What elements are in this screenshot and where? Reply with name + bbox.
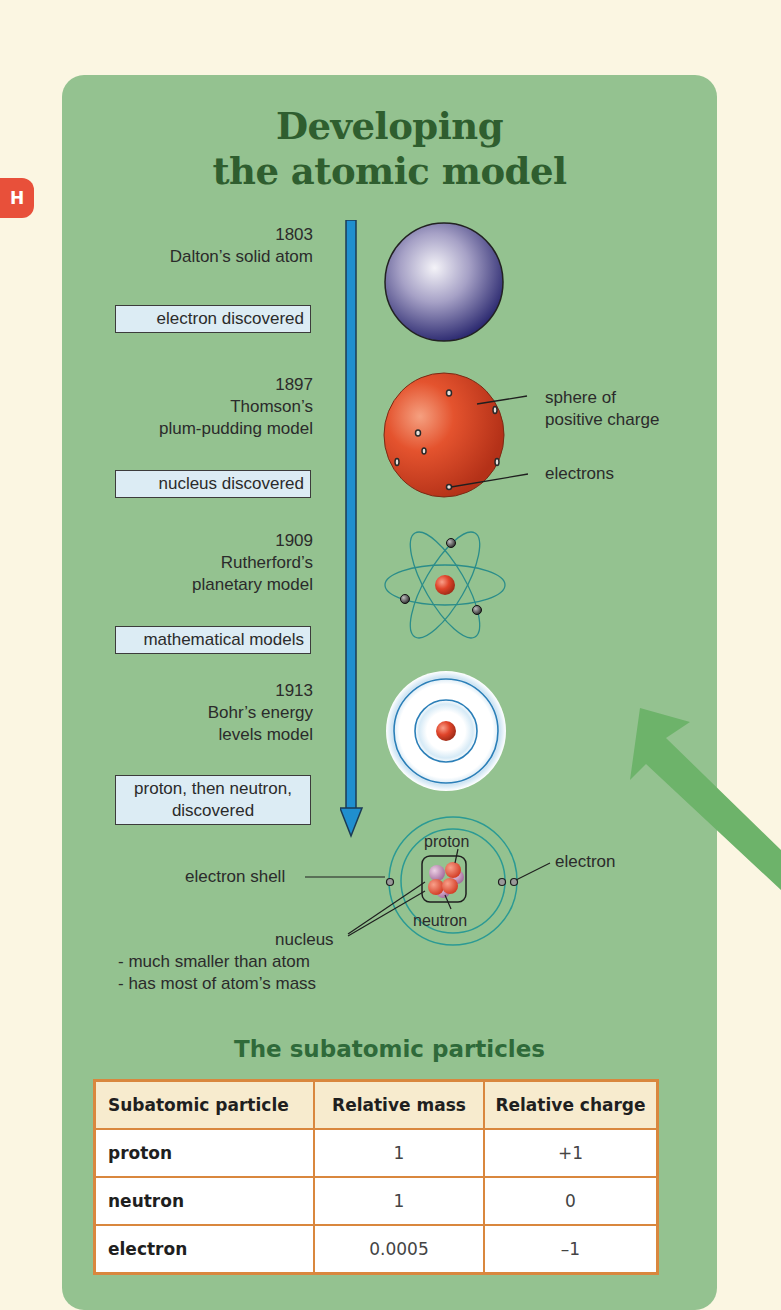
bohr-energy-levels-atom-icon <box>385 669 507 793</box>
subatomic-particles-table: Subatomic particle Relative mass Relativ… <box>93 1079 659 1275</box>
cell-charge: –1 <box>484 1225 658 1274</box>
annotation-nucleus: nucleus <box>275 929 334 951</box>
model-bohr-label: 1913 Bohr’s energy levels model <box>208 680 313 746</box>
event-mathematical-models: mathematical models <box>115 626 311 654</box>
cell-mass: 0.0005 <box>314 1225 484 1274</box>
table-row: proton 1 +1 <box>95 1129 658 1177</box>
event-electron-discovered: electron discovered <box>115 305 311 333</box>
event-nucleus-discovered: nucleus discovered <box>115 470 311 498</box>
annotation-electron-shell: electron shell <box>185 866 285 888</box>
nucleus-note-mass: - has most of atom’s mass <box>118 973 316 995</box>
header-mass: Relative mass <box>314 1081 484 1130</box>
rutherford-planetary-atom-icon <box>383 528 507 642</box>
annotation-electrons: electrons <box>545 463 614 485</box>
model-thomson-label: 1897 Thomson’s plum-pudding model <box>159 374 313 440</box>
nucleus-note-size: - much smaller than atom <box>118 951 310 973</box>
page-title: Developing the atomic model <box>62 104 717 194</box>
event-proton-neutron-discovered: proton, then neutron, discovered <box>115 775 311 825</box>
annotation-sphere-of-positive-charge: sphere of positive charge <box>545 387 659 431</box>
table-row: neutron 1 0 <box>95 1177 658 1225</box>
header-charge: Relative charge <box>484 1081 658 1130</box>
cell-charge: +1 <box>484 1129 658 1177</box>
model-dalton-label: 1803 Dalton’s solid atom <box>170 224 313 268</box>
annotation-proton: proton <box>424 831 469 853</box>
cell-particle: proton <box>95 1129 315 1177</box>
cell-particle: electron <box>95 1225 315 1274</box>
table-title: The subatomic particles <box>62 1036 717 1062</box>
model-rutherford-label: 1909 Rutherford’s planetary model <box>192 530 313 596</box>
decorative-arrow-icon <box>600 700 781 900</box>
annotation-electron: electron <box>555 851 615 873</box>
table-row: electron 0.0005 –1 <box>95 1225 658 1274</box>
annotation-neutron: neutron <box>413 910 467 932</box>
header-particle: Subatomic particle <box>95 1081 315 1130</box>
cell-mass: 1 <box>314 1177 484 1225</box>
dalton-solid-atom-icon <box>383 220 505 344</box>
cell-particle: neutron <box>95 1177 315 1225</box>
cell-mass: 1 <box>314 1129 484 1177</box>
cell-charge: 0 <box>484 1177 658 1225</box>
table-header-row: Subatomic particle Relative mass Relativ… <box>95 1081 658 1130</box>
timeline-arrow-icon <box>340 220 364 840</box>
higher-tier-badge: H <box>0 178 34 218</box>
